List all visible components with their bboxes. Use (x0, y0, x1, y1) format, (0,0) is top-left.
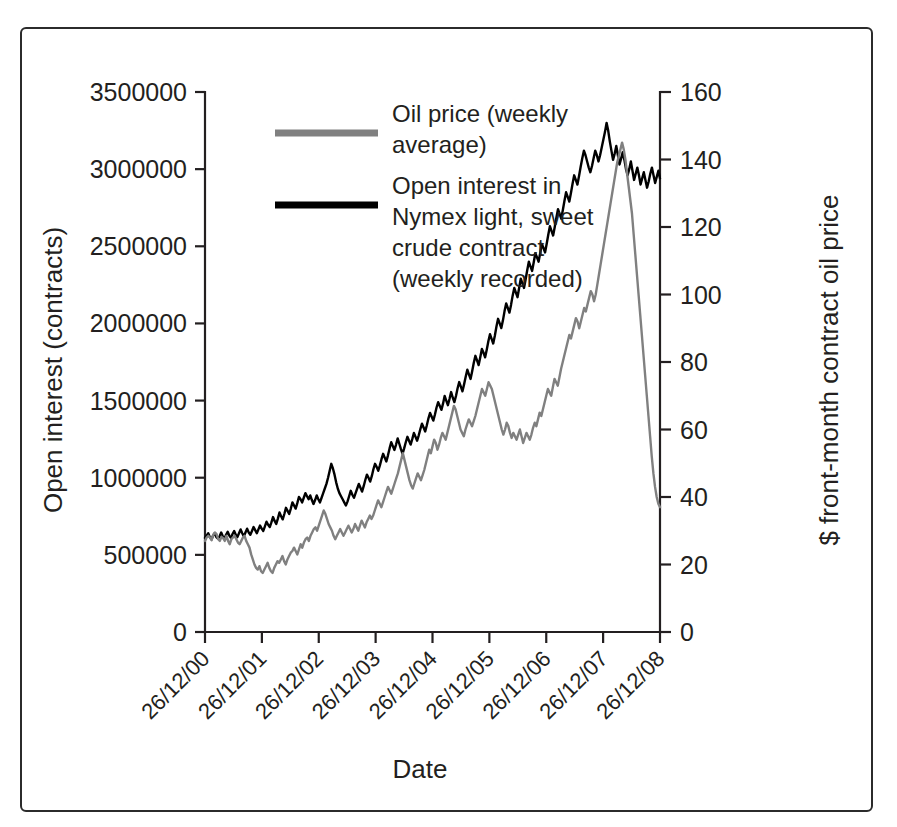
left-tick-label: 1000000 (90, 464, 187, 492)
x-axis-title: Date (393, 754, 448, 784)
left-tick-label: 500000 (104, 541, 187, 569)
y-axis-title: Open interest (contracts) (38, 227, 68, 513)
left-tick-label: 0 (173, 618, 187, 646)
legend-label-open-interest: Nymex light, sweet (392, 203, 594, 230)
left-axis-tick-labels: 0500000100000015000002000000250000030000… (90, 78, 187, 646)
right-tick-label: 40 (680, 483, 708, 511)
left-tick-label: 2000000 (90, 309, 187, 337)
left-tick-label: 1500000 (90, 387, 187, 415)
right-axis-tick-labels: 020406080100120140160 (680, 78, 722, 646)
right-tick-label: 100 (680, 281, 722, 309)
right-axis-ticks (660, 92, 671, 632)
right-tick-label: 120 (680, 213, 722, 241)
left-tick-label: 3500000 (90, 78, 187, 106)
right-tick-label: 0 (680, 618, 694, 646)
right-tick-label: 20 (680, 551, 708, 579)
legend-label-open-interest: Open interest in (392, 172, 561, 199)
legend-label-open-interest: (weekly recorded) (392, 265, 583, 292)
x-axis-tick-labels: 26/12/0026/12/0126/12/0226/12/0326/12/04… (136, 646, 669, 724)
right-axis: 020406080100120140160 (660, 78, 722, 646)
left-axis: 0500000100000015000002000000250000030000… (90, 78, 205, 646)
right-tick-label: 140 (680, 146, 722, 174)
right-tick-label: 160 (680, 78, 722, 106)
legend-label-oil-price: average) (392, 131, 487, 158)
bottom-axis: 26/12/0026/12/0126/12/0226/12/0326/12/04… (136, 632, 669, 724)
legend-label-oil-price: Oil price (weekly (392, 100, 568, 127)
left-tick-label: 2500000 (90, 232, 187, 260)
y2-axis-title: $ front-month contract oil price (814, 194, 844, 545)
right-tick-label: 60 (680, 416, 708, 444)
chart-svg: 0500000100000015000002000000250000030000… (0, 0, 897, 827)
right-tick-label: 80 (680, 348, 708, 376)
chart-container: 0500000100000015000002000000250000030000… (0, 0, 897, 827)
x-axis-ticks (205, 632, 660, 643)
left-tick-label: 3000000 (90, 155, 187, 183)
chart-legend: Oil price (weeklyaverage)Open interest i… (275, 100, 594, 292)
legend-label-open-interest: crude contract (392, 234, 544, 261)
left-axis-ticks (195, 92, 205, 632)
